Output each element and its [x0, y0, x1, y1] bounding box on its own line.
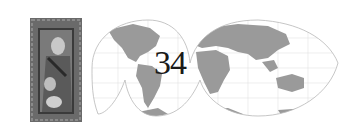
- chapter-header-graphic: 34: [0, 0, 346, 138]
- framed-portrait-icon: [28, 16, 84, 124]
- page-number: 34: [154, 46, 186, 80]
- world-map-icon: [78, 18, 340, 118]
